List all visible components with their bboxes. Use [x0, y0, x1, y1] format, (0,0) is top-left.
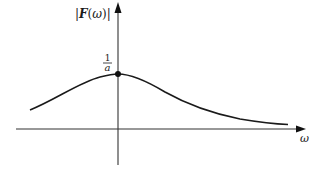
y-axis-arrow-icon — [115, 2, 122, 13]
magnitude-curve — [30, 74, 288, 125]
y-axis-label: |F(ω)| — [75, 7, 111, 21]
x-axis-label: ω — [300, 132, 309, 145]
peak-label-denominator: a — [105, 62, 111, 73]
peak-point — [115, 71, 121, 77]
y-axis — [115, 2, 122, 165]
magnitude-plot: |F(ω)| 1 a ω — [0, 0, 319, 178]
x-axis — [16, 126, 306, 133]
peak-label: 1 a — [103, 53, 112, 73]
